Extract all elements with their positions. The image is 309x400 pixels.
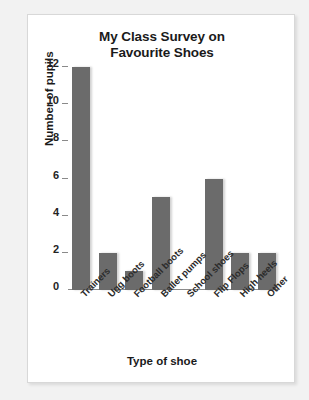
y-axis-tick: 10	[34, 103, 68, 104]
y-axis-tick: 4	[34, 215, 68, 216]
chart-title-line-2: Favourite Shoes	[28, 45, 296, 61]
y-axis-tick-label: 6	[53, 170, 59, 181]
y-axis-tick-label: 8	[53, 132, 59, 143]
bar[interactable]	[72, 67, 90, 290]
y-axis-tick: 8	[34, 140, 68, 141]
x-axis-tick-labels: TrainersUgg bootsFootball bootsBallet pu…	[68, 292, 280, 354]
bar-chart: My Class Survey on Favourite Shoes Numbe…	[28, 15, 296, 384]
chart-title: My Class Survey on Favourite Shoes	[28, 29, 296, 61]
chart-panel: My Class Survey on Favourite Shoes Numbe…	[27, 14, 295, 383]
y-axis-tick: 2	[34, 252, 68, 253]
y-axis-tick-label: 2	[53, 244, 59, 255]
chart-screenshot: My Class Survey on Favourite Shoes Numbe…	[0, 0, 309, 400]
y-axis-tick-label: 0	[53, 281, 59, 292]
chart-title-line-1: My Class Survey on	[28, 29, 296, 45]
y-axis-tick-label: 4	[53, 207, 59, 218]
y-axis-tick: 6	[34, 178, 68, 179]
y-axis-tick: 12	[34, 66, 68, 67]
x-axis-title: Type of shoe	[28, 356, 296, 368]
y-axis-tick-label: 12	[47, 58, 59, 69]
y-axis-tick: 0	[34, 289, 68, 290]
y-axis-tick-label: 10	[47, 95, 59, 106]
